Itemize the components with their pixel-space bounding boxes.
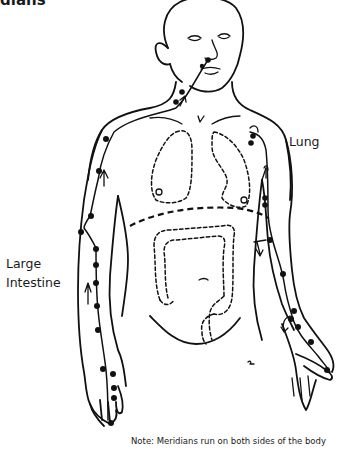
large-intestine-label-line2: Intestine bbox=[6, 273, 61, 292]
large-intestine bbox=[154, 225, 234, 344]
lungs bbox=[152, 131, 250, 207]
large-intestine-label-line1: Large bbox=[6, 254, 61, 273]
lung-label: Lung bbox=[289, 134, 320, 149]
meridian-diagram: dians Lung Large Intestine Note: Meridia… bbox=[0, 0, 353, 451]
figure-title: dians bbox=[0, 0, 46, 9]
arrow-down-icon bbox=[256, 242, 263, 256]
arrow-up-icon bbox=[180, 96, 186, 106]
right-arm bbox=[262, 140, 334, 410]
large-intestine-meridian bbox=[78, 57, 211, 426]
diaphragm-line bbox=[130, 208, 268, 226]
large-intestine-label: Large Intestine bbox=[6, 254, 61, 292]
footnote: Note: Meridians run on both sides of the… bbox=[131, 436, 326, 446]
head bbox=[156, 0, 244, 92]
tick-mark bbox=[248, 361, 254, 364]
body-illustration bbox=[0, 0, 353, 451]
arrow-up-icon bbox=[85, 283, 91, 304]
